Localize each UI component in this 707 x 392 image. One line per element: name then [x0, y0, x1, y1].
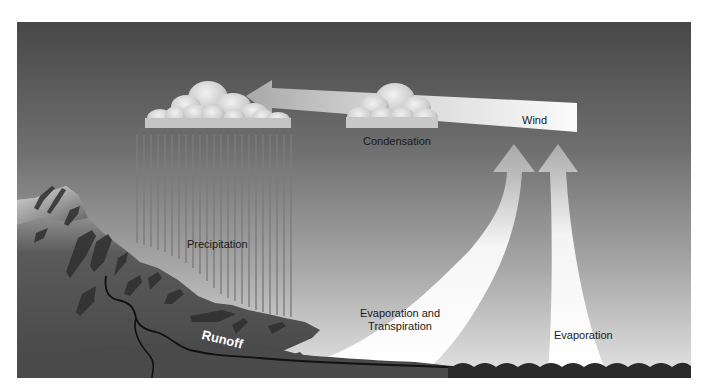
condensation-label: Condensation — [363, 135, 431, 148]
precipitation-label: Precipitation — [187, 238, 248, 251]
ocean — [448, 363, 691, 378]
evapotranspiration-label-line2: Transpiration — [350, 320, 450, 333]
evaporation-label: Evaporation — [554, 329, 613, 342]
wind-label: Wind — [522, 114, 547, 127]
evapotranspiration-label-line1: Evaporation and — [350, 307, 450, 320]
evapotranspiration-label: Evaporation and Transpiration — [350, 307, 450, 333]
